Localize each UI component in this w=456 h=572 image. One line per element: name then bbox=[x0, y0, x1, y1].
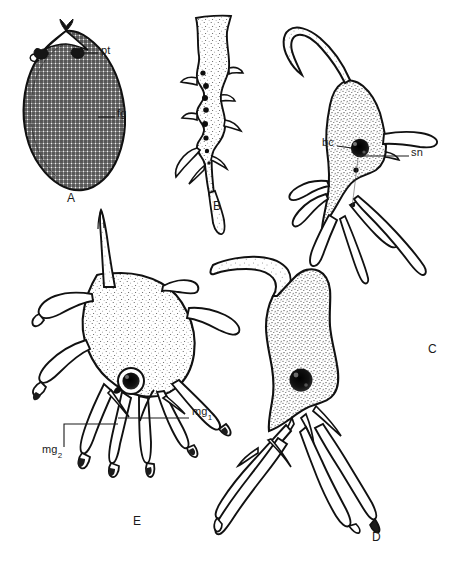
granule bbox=[207, 161, 210, 164]
annotation-label-bc: bc bbox=[322, 137, 334, 148]
panel-letter-d: D bbox=[372, 531, 381, 543]
granule bbox=[202, 95, 208, 101]
annotation-mg2-sub: 2 bbox=[58, 451, 63, 460]
annotation-mg2-base: mg bbox=[42, 443, 58, 455]
nucleus-bc bbox=[351, 139, 369, 157]
annotation-label-mg2: mg2 bbox=[42, 444, 62, 455]
annotation-mg1-sub: 1 bbox=[208, 413, 213, 422]
granule bbox=[203, 83, 209, 89]
granule bbox=[202, 121, 208, 127]
panel-letter-c: C bbox=[428, 343, 437, 355]
nucleus bbox=[290, 369, 313, 392]
panel-letter-a: A bbox=[67, 192, 75, 204]
granule bbox=[205, 149, 209, 153]
annotation-label-mg1: mg1 bbox=[192, 406, 212, 417]
annotation-label-pt: pt bbox=[101, 45, 111, 56]
granule bbox=[200, 70, 205, 75]
polar-structure-right bbox=[71, 48, 84, 58]
annotation-label-sn: sn bbox=[411, 147, 423, 158]
figure-illustration bbox=[0, 0, 456, 572]
annotation-label-fg: fg bbox=[117, 108, 127, 119]
panel-letter-b: B bbox=[213, 200, 221, 212]
panel-letter-e: E bbox=[133, 515, 141, 527]
figure-plate: A B C D E pt fg bc sn mg1 mg2 bbox=[0, 0, 456, 572]
polar-structure-left bbox=[34, 49, 48, 60]
granule bbox=[203, 135, 208, 140]
annotation-mg1-base: mg bbox=[192, 405, 208, 417]
granule bbox=[203, 107, 209, 113]
